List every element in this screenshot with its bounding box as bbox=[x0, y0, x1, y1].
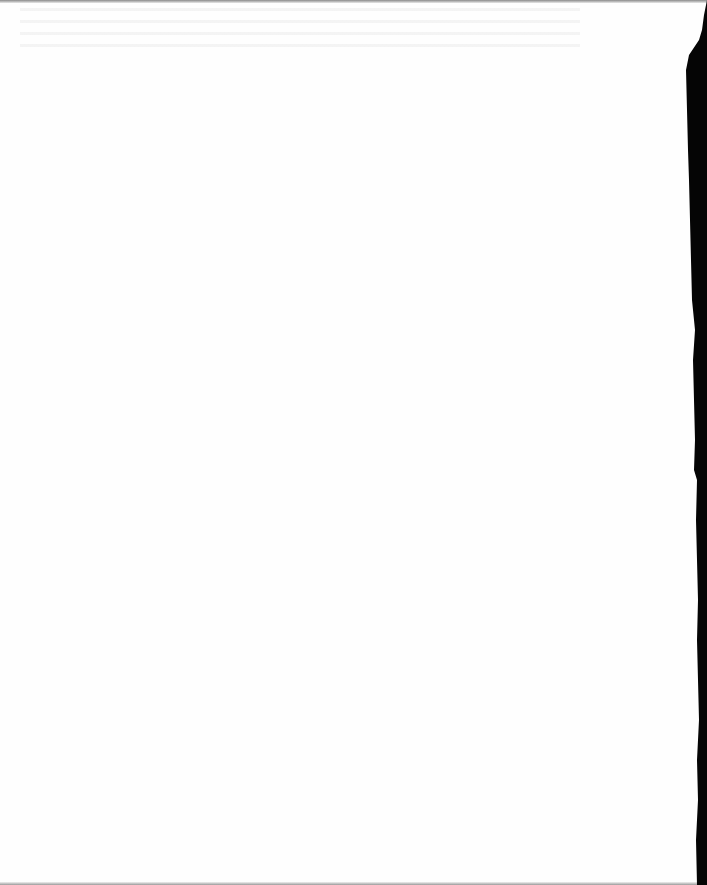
faint-bleed-through-marks bbox=[20, 8, 580, 48]
scanner-shadow-edge bbox=[667, 0, 707, 885]
blank-page bbox=[0, 0, 707, 885]
page-top-edge bbox=[0, 0, 707, 3]
